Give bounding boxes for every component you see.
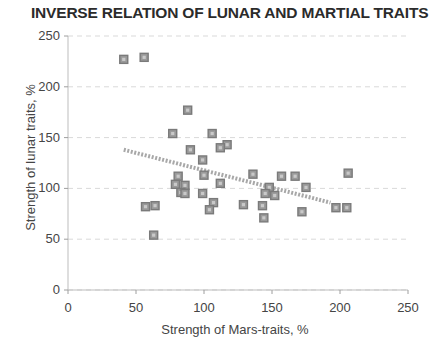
data-point (142, 203, 150, 211)
data-point (208, 130, 216, 138)
data-point (200, 171, 208, 179)
scatter-chart: INVERSE RELATION OF LUNAR AND MARTIAL TR… (0, 0, 429, 343)
data-point (140, 53, 148, 61)
data-point (239, 201, 247, 209)
axis-lines (64, 36, 408, 294)
data-point (151, 202, 159, 210)
data-point (216, 144, 224, 152)
data-point (302, 183, 310, 191)
data-point (258, 202, 266, 210)
data-point (216, 179, 224, 187)
data-point (181, 189, 189, 197)
data-point (186, 146, 194, 154)
data-point (199, 156, 207, 164)
data-point (278, 172, 286, 180)
data-point (271, 192, 279, 200)
data-point (343, 204, 351, 212)
data-point (249, 170, 257, 178)
data-point (150, 231, 158, 239)
data-point (260, 214, 268, 222)
data-point (332, 204, 340, 212)
data-point (344, 169, 352, 177)
data-point (174, 172, 182, 180)
grid-lines (68, 36, 408, 290)
data-point (184, 106, 192, 114)
data-points (120, 53, 352, 239)
data-point (120, 55, 128, 63)
data-point (205, 206, 213, 214)
data-point (199, 189, 207, 197)
data-point (171, 180, 179, 188)
data-point (298, 208, 306, 216)
data-point (291, 172, 299, 180)
data-point (169, 130, 177, 138)
plot-area (0, 0, 429, 343)
data-point (261, 189, 269, 197)
